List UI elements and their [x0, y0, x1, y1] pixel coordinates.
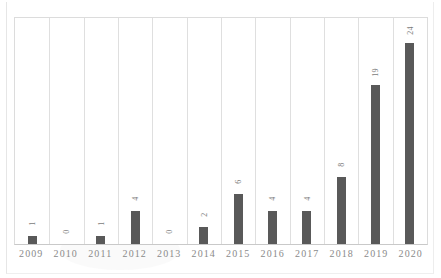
- bar-group: 1: [84, 18, 118, 244]
- bar-value-label: 6: [234, 179, 243, 183]
- x-axis-label-2020: 2020: [394, 248, 429, 259]
- bars-layer: 10140264481924: [15, 18, 427, 244]
- bar-group: 0: [49, 18, 83, 244]
- x-axis-label-2017: 2017: [290, 248, 325, 259]
- bar-group: 24: [393, 18, 427, 244]
- x-axis-label-2012: 2012: [118, 248, 153, 259]
- bar-group: 19: [358, 18, 392, 244]
- bar: [337, 177, 346, 244]
- x-axis-label-2011: 2011: [83, 248, 118, 259]
- bar: [199, 227, 208, 244]
- bar-group: 2: [187, 18, 221, 244]
- x-axis-label-2018: 2018: [325, 248, 360, 259]
- bar: [234, 194, 243, 244]
- plot-area: 10140264481924: [14, 17, 428, 245]
- bar-group: 6: [221, 18, 255, 244]
- bar-group: 4: [118, 18, 152, 244]
- bar-group: 0: [152, 18, 186, 244]
- x-axis-label-2010: 2010: [49, 248, 84, 259]
- bar: [28, 236, 37, 244]
- bar: [302, 211, 311, 244]
- bar-group: 4: [255, 18, 289, 244]
- bar-chart: 10140264481924 2009201020112012201320142…: [0, 0, 441, 278]
- bar-value-label: 24: [405, 26, 414, 35]
- x-axis-label-2013: 2013: [152, 248, 187, 259]
- x-axis-label-2009: 2009: [14, 248, 49, 259]
- bar-value-label: 4: [302, 196, 311, 200]
- bar-value-label: 8: [337, 162, 346, 166]
- bar: [131, 211, 140, 244]
- bar-group: 4: [290, 18, 324, 244]
- bar-value-label: 2: [199, 213, 208, 217]
- bar: [268, 211, 277, 244]
- bar: [96, 236, 105, 244]
- bar-value-label: 19: [371, 68, 380, 77]
- bar: [405, 43, 414, 244]
- bar-value-label: 1: [28, 221, 37, 225]
- bar-value-label: 0: [62, 229, 71, 233]
- bar-value-label: 4: [131, 196, 140, 200]
- bar-value-label: 1: [96, 221, 105, 225]
- x-axis-label-2019: 2019: [359, 248, 394, 259]
- bar-value-label: 4: [268, 196, 277, 200]
- bar-group: 1: [15, 18, 49, 244]
- bar-value-label: 0: [165, 229, 174, 233]
- x-axis-tick-labels: 2009201020112012201320142015201620172018…: [14, 248, 428, 259]
- bar-group: 8: [324, 18, 358, 244]
- x-axis-label-2015: 2015: [221, 248, 256, 259]
- x-axis-label-2014: 2014: [187, 248, 222, 259]
- bar: [371, 85, 380, 244]
- x-axis-label-2016: 2016: [256, 248, 291, 259]
